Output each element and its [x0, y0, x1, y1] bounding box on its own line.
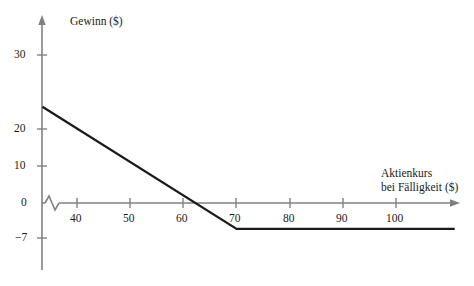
x-tick-label-40: 40	[70, 213, 82, 225]
y-tick-label-0: 0	[21, 197, 27, 209]
x-tick-label-100: 100	[386, 213, 403, 225]
x-tick-label-50: 50	[123, 213, 135, 225]
chart-canvas	[0, 0, 474, 286]
x-tick-label-90: 90	[336, 213, 348, 225]
y-tick-label-minus7: −7	[15, 232, 27, 244]
y-tick-label-10: 10	[14, 160, 26, 172]
y-axis-title: Gewinn ($)	[70, 14, 123, 29]
x-tick-label-70: 70	[229, 213, 241, 225]
x-axis-title-line2: bei Fälligkeit ($)	[381, 180, 458, 195]
y-axis-arrowhead	[38, 15, 45, 25]
x-tick-label-60: 60	[176, 213, 188, 225]
x-axis-title-line1: Aktienkurs	[381, 166, 432, 181]
y-tick-label-30: 30	[14, 49, 26, 61]
x-axis-break-zigzag	[45, 196, 59, 210]
x-tick-label-80: 80	[283, 213, 295, 225]
y-tick-label-20: 20	[14, 123, 26, 135]
profit-diagram: Gewinn ($) Aktienkurs bei Fälligkeit ($)…	[0, 0, 474, 286]
x-axis-arrowhead	[450, 199, 460, 206]
